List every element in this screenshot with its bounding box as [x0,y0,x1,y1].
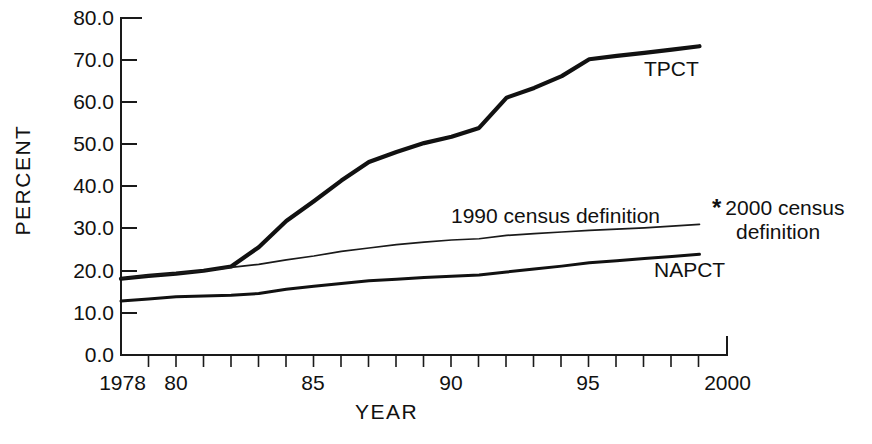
y-tick-label-70: 70.0 [24,48,114,72]
chart-figure: 80.0 70.0 60.0 50.0 40.0 30.0 20.0 10.0 … [0,0,872,444]
x-tick-label-95: 95 [565,371,611,395]
y-tick-label-50: 50.0 [24,132,114,156]
series-label-napct: NAPCT [654,258,725,282]
x-tick-label-90: 90 [428,371,474,395]
x-tick-label-85: 85 [290,371,336,395]
x-tick-label-2000: 2000 [700,371,755,395]
x-tick-label-1978: 1978 [95,371,150,395]
y-axis-ticks [121,60,137,313]
x-tick-label-80: 80 [153,371,199,395]
x-axis-title: YEAR [355,400,418,424]
y-tick-label-80: 80.0 [24,6,114,30]
y-tick-label-40: 40.0 [24,174,114,198]
footnote-2000-census-definition: *2000 census definition [712,196,872,244]
series-line-1990-census-definition [121,224,699,278]
y-tick-label-20: 20.0 [24,259,114,283]
footnote-line-1: 2000 census [725,196,844,219]
y-tick-label-0: 0.0 [24,343,114,367]
asterisk-icon: * [712,194,721,221]
footnote-line-2: definition [736,220,872,244]
series-label-tpct: TPCT [644,57,699,81]
y-axis-title: PERCENT [11,105,35,255]
series-label-1990-census-definition: 1990 census definition [451,204,660,228]
y-tick-label-10: 10.0 [24,301,114,325]
y-tick-label-30: 30.0 [24,216,114,240]
series-line-napct [121,254,699,301]
x-axis-ticks [149,355,699,367]
x-axis-line [121,337,727,355]
y-tick-label-60: 60.0 [24,90,114,114]
